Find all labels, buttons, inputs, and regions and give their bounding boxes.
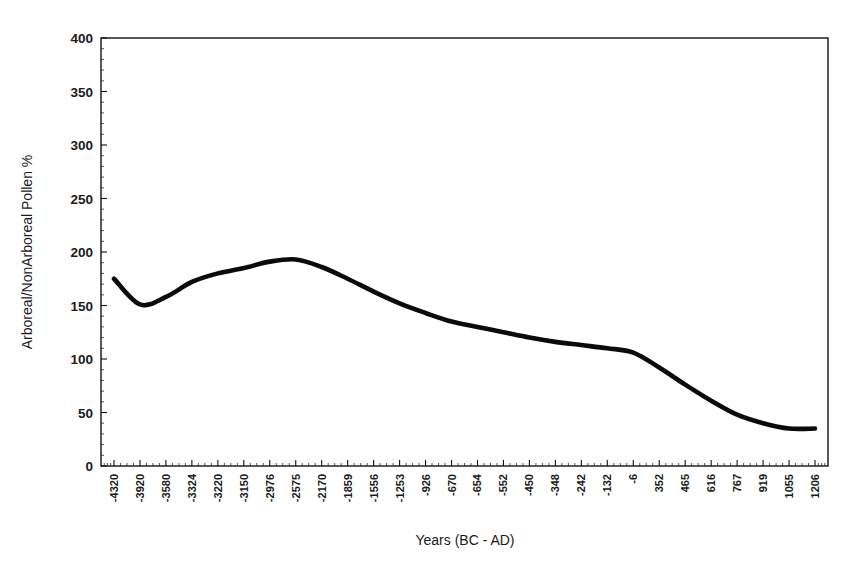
y-tick-label: 200 (70, 245, 93, 260)
x-tick-label: -670 (446, 474, 458, 496)
x-tick-label: -552 (497, 474, 509, 496)
x-tick-label: -3150 (238, 474, 250, 502)
x-tick-label: 1206 (809, 474, 821, 498)
y-tick-label: 350 (70, 85, 93, 100)
x-tick-label: -926 (420, 474, 432, 496)
x-axis-title: Years (BC - AD) (415, 532, 514, 548)
y-tick-label: 300 (70, 138, 93, 153)
x-tick-label: 1055 (783, 474, 795, 498)
x-tick-label: -1556 (368, 474, 380, 502)
y-tick-label: 100 (70, 352, 93, 367)
x-tick-label: -6 (627, 474, 639, 484)
y-tick-label: 50 (78, 406, 93, 421)
x-tick-label: -3220 (212, 474, 224, 502)
x-tick-label: -2976 (264, 474, 276, 502)
x-tick-label: 465 (679, 474, 691, 492)
x-tick-label: -4320 (108, 474, 120, 502)
y-axis-title: Arboreal/NonArboreal Pollen % (19, 155, 35, 350)
y-tick-label: 250 (70, 192, 93, 207)
x-tick-label: 352 (653, 474, 665, 492)
x-tick-label: -1253 (394, 474, 406, 502)
x-tick-label: -3324 (186, 473, 198, 502)
x-tick-label: -242 (575, 474, 587, 496)
chart-svg: 050100150200250300350400 -4320-3920-3580… (0, 0, 860, 571)
x-tick-label: -1859 (342, 474, 354, 502)
x-tick-label: 919 (757, 474, 769, 492)
x-tick-label: -3580 (160, 474, 172, 502)
plot-area-frame (101, 38, 828, 466)
y-tick-label: 400 (70, 31, 93, 46)
y-tick-label: 0 (85, 459, 93, 474)
chart-figure: 050100150200250300350400 -4320-3920-3580… (0, 0, 860, 571)
x-tick-label: -654 (471, 473, 483, 496)
x-tick-label: -2170 (316, 474, 328, 502)
x-tick-label: 767 (731, 474, 743, 492)
x-tick-label: 616 (705, 474, 717, 492)
x-tick-label: -132 (601, 474, 613, 496)
x-tick-label: -3920 (134, 474, 146, 502)
x-tick-label: -450 (523, 474, 535, 496)
x-tick-label: -348 (549, 474, 561, 496)
y-tick-label: 150 (70, 299, 93, 314)
x-tick-label: -2575 (290, 474, 302, 502)
